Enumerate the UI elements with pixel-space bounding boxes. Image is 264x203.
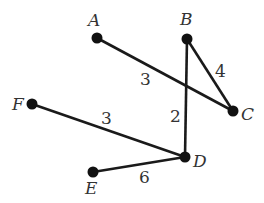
node-label-D: D bbox=[192, 151, 207, 171]
node-E bbox=[88, 167, 99, 178]
node-label-F: F bbox=[11, 94, 25, 114]
node-F bbox=[27, 99, 38, 110]
node-label-E: E bbox=[84, 178, 98, 198]
edge-weight-A-C: 3 bbox=[140, 69, 151, 89]
edge-A-C bbox=[97, 38, 233, 111]
node-label-B: B bbox=[179, 9, 193, 29]
node-C bbox=[228, 106, 239, 117]
edge-B-C bbox=[187, 39, 233, 111]
edge-weight-B-D: 2 bbox=[170, 106, 181, 126]
node-label-A: A bbox=[86, 10, 100, 30]
edge-weight-E-D: 6 bbox=[139, 167, 150, 187]
graph-canvas: (B) 34236 ABCDEF bbox=[0, 0, 264, 203]
node-A bbox=[92, 33, 103, 44]
edge-weight-F-D: 3 bbox=[101, 108, 112, 128]
graph-diagram: (B) 34236 ABCDEF bbox=[0, 0, 264, 203]
edge-weight-B-C: 4 bbox=[215, 61, 226, 81]
node-label-C: C bbox=[241, 104, 254, 124]
edge-B-D bbox=[185, 39, 187, 157]
node-D bbox=[180, 152, 191, 163]
node-B bbox=[182, 34, 193, 45]
